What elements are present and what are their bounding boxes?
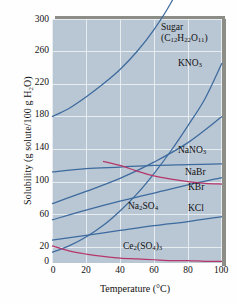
sugar-close: ): [204, 33, 207, 43]
curve-label-nano3: NaNO3: [178, 145, 206, 158]
curve-label-ce2so43: Ce2(SO4)3: [123, 241, 162, 254]
curve-label-nabr: NaBr: [185, 167, 206, 178]
x-axis-title: Temperature (°C): [40, 283, 230, 294]
ce-so: (SO: [137, 241, 152, 251]
na2so4-na: Na: [128, 201, 139, 211]
curve-label-sugar: Sugar (C12H22O11): [161, 22, 208, 45]
x-tick-40: 40: [105, 266, 135, 276]
kno3-text: KNO: [178, 58, 199, 68]
x-tick-100: 100: [206, 266, 236, 276]
solubility-chart-figure: 300 260 220 180 140 100 60 20 0 Solubili…: [0, 0, 237, 303]
nano3-sub: 3: [203, 148, 206, 155]
curve-label-kbr: KBr: [188, 182, 204, 193]
sugar-o: O: [191, 33, 198, 43]
x-tick-60: 60: [139, 266, 169, 276]
plot-area: Sugar (C12H22O11) KNO3 NaNO3 NaBr KBr KC…: [52, 19, 222, 263]
sugar-sub-22: 22: [184, 36, 191, 43]
na2so4-so: SO: [142, 201, 154, 211]
ce-text: Ce: [123, 241, 134, 251]
plot-shadow-right: [222, 19, 226, 266]
curve-label-sugar-formula: (C12H22O11): [161, 33, 208, 46]
curve-label-sugar-name: Sugar: [161, 22, 208, 33]
curve-kcl: [52, 217, 222, 241]
y-axis-title-prefix: Solubility (g solute/100 g H: [22, 91, 33, 205]
y-axis-title-subscript: 2: [27, 87, 34, 91]
nano3-text: NaNO: [178, 145, 203, 155]
kno3-sub: 3: [199, 61, 202, 68]
curves-svg: [52, 19, 222, 263]
curve-label-na2so4: Na2SO4: [128, 201, 158, 214]
x-tick-80: 80: [173, 266, 203, 276]
y-axis-title-suffix: O): [22, 76, 33, 87]
curve-label-kno3: KNO3: [178, 58, 202, 71]
ce-sub-3: 3: [159, 244, 162, 251]
y-axis-title: Solubility (g solute/100 g H2O): [22, 41, 33, 241]
y-axis-title-wrapper: Solubility (g solute/100 g H2O): [14, 0, 28, 303]
x-tick-20: 20: [71, 266, 101, 276]
na2so4-sub-4: 4: [155, 204, 158, 211]
curve-label-kcl: KCl: [188, 203, 204, 214]
sugar-open: (C: [161, 33, 171, 43]
x-axis-ticks: 0 20 40 60 80 100: [0, 266, 237, 280]
x-tick-0: 0: [38, 266, 68, 276]
